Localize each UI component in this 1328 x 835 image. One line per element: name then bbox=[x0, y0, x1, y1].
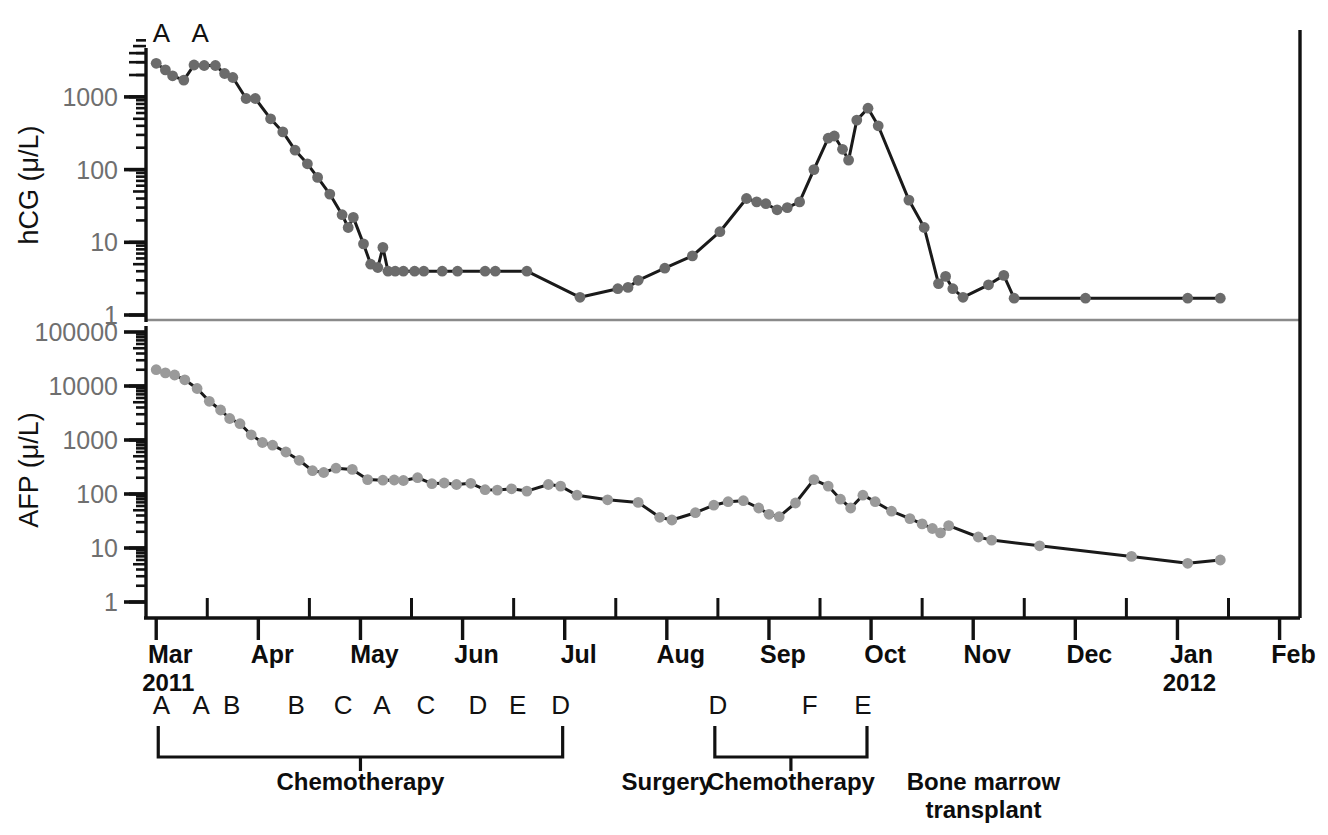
afp-data-point bbox=[835, 494, 846, 505]
hcg-data-point bbox=[998, 270, 1009, 281]
hcg-data-point bbox=[378, 242, 389, 253]
hcg-data-point bbox=[437, 266, 448, 277]
panel-afp: 100000100001000100101AFP (μ/L) bbox=[14, 318, 1226, 618]
afp-data-point bbox=[986, 535, 997, 546]
afp-data-point bbox=[602, 494, 613, 505]
afp-data-point bbox=[738, 495, 749, 506]
hcg-data-point bbox=[761, 198, 772, 209]
treatment-cycle-label: C bbox=[334, 690, 353, 720]
hcg-data-point bbox=[522, 266, 533, 277]
hcg-data-point bbox=[741, 193, 752, 204]
phase-label: Surgery bbox=[621, 768, 712, 795]
afp-data-point bbox=[267, 440, 278, 451]
hcg-data-point bbox=[452, 266, 463, 277]
hcg-axis-title: hCG (μ/L) bbox=[14, 125, 44, 244]
treatment-phases: ChemotherapySurgeryChemotherapyBone marr… bbox=[158, 726, 1060, 823]
afp-data-point bbox=[378, 475, 389, 486]
hcg-data-point bbox=[189, 60, 200, 71]
afp-data-point bbox=[331, 463, 342, 474]
x-month-label: May bbox=[350, 640, 399, 668]
hcg-data-point bbox=[633, 275, 644, 286]
hcg-data-point bbox=[337, 209, 348, 220]
afp-data-point bbox=[506, 483, 517, 494]
y-tick-label: 1000 bbox=[62, 426, 118, 454]
hcg-data-point bbox=[843, 155, 854, 166]
hcg-data-point bbox=[302, 158, 313, 169]
hcg-data-point bbox=[904, 195, 915, 206]
afp-data-point bbox=[151, 364, 162, 375]
hcg-data-point bbox=[199, 60, 210, 71]
x-month-label: Nov bbox=[964, 640, 1011, 668]
afp-data-point bbox=[774, 511, 785, 522]
hcg-data-point bbox=[837, 144, 848, 155]
afp-data-point bbox=[307, 465, 318, 476]
treatment-cycle-label: D bbox=[469, 690, 488, 720]
afp-data-point bbox=[427, 478, 438, 489]
hcg-data-point bbox=[312, 172, 323, 183]
hcg-data-point bbox=[418, 266, 429, 277]
afp-data-point bbox=[1182, 558, 1193, 569]
afp-data-point bbox=[362, 474, 373, 485]
hcg-data-point bbox=[851, 115, 862, 126]
afp-data-point bbox=[192, 383, 203, 394]
afp-data-point bbox=[858, 490, 869, 501]
afp-data-point bbox=[555, 481, 566, 492]
treatment-cycle-label: A bbox=[153, 690, 171, 720]
afp-data-point bbox=[281, 447, 292, 458]
x-month-label: Mar bbox=[148, 640, 193, 668]
phase-bracket bbox=[158, 726, 562, 757]
afp-data-point bbox=[451, 479, 462, 490]
hcg-data-point bbox=[343, 222, 354, 233]
hcg-data-point bbox=[829, 131, 840, 142]
afp-data-point bbox=[633, 497, 644, 508]
afp-data-point bbox=[690, 507, 701, 518]
afp-data-point bbox=[870, 496, 881, 507]
afp-data-point bbox=[389, 475, 400, 486]
hcg-data-point bbox=[372, 262, 383, 273]
afp-data-point bbox=[654, 512, 665, 523]
afp-data-point bbox=[809, 474, 820, 485]
hcg-data-point bbox=[178, 75, 189, 86]
hcg-data-point bbox=[265, 113, 276, 124]
afp-data-point bbox=[973, 532, 984, 543]
y-tick-label: 100 bbox=[76, 480, 118, 508]
afp-data-point bbox=[160, 368, 171, 379]
afp-data-point bbox=[169, 370, 180, 381]
y-tick-label: 1 bbox=[104, 588, 118, 616]
y-tick-label: 1000 bbox=[62, 83, 118, 111]
hcg-data-point bbox=[290, 145, 301, 156]
x-month-label: Sep bbox=[760, 640, 806, 668]
treatment-cycle-label: B bbox=[287, 690, 304, 720]
afp-data-point bbox=[905, 513, 916, 524]
hcg-data-point bbox=[250, 93, 261, 104]
hcg-data-point bbox=[241, 93, 252, 104]
afp-data-point bbox=[522, 486, 533, 497]
y-tick-label: 10 bbox=[90, 228, 118, 256]
afp-data-point bbox=[347, 464, 358, 475]
phase-bracket bbox=[715, 726, 867, 757]
hcg-data-point bbox=[324, 189, 335, 200]
treatment-cycles: AABBCCADEDDFE bbox=[153, 690, 872, 720]
hcg-data-point bbox=[947, 283, 958, 294]
treatment-cycle-label: F bbox=[802, 690, 818, 720]
hcg-data-point bbox=[167, 70, 178, 81]
afp-data-point bbox=[935, 528, 946, 539]
y-tick-label: 10000 bbox=[48, 372, 118, 400]
afp-data-point bbox=[790, 498, 801, 509]
afp-data-point bbox=[492, 485, 503, 496]
hcg-annotation-label: A bbox=[153, 18, 171, 48]
hcg-data-point bbox=[715, 226, 726, 237]
afp-data-point bbox=[480, 484, 491, 495]
chart-figure: 1000100101hCG (μ/L)AA1000001000010001001… bbox=[0, 0, 1328, 835]
hcg-data-point bbox=[809, 164, 820, 175]
afp-data-point bbox=[917, 519, 928, 530]
y-tick-label: 100 bbox=[76, 156, 118, 184]
treatment-cycle-label: A bbox=[373, 690, 391, 720]
afp-data-point bbox=[318, 467, 329, 478]
afp-data-point bbox=[398, 475, 409, 486]
treatment-cycle-label: E bbox=[509, 690, 526, 720]
hcg-data-point bbox=[227, 72, 238, 83]
x-month-label: Feb bbox=[1271, 640, 1315, 668]
afp-data-point bbox=[764, 509, 775, 520]
afp-data-point bbox=[439, 478, 450, 489]
